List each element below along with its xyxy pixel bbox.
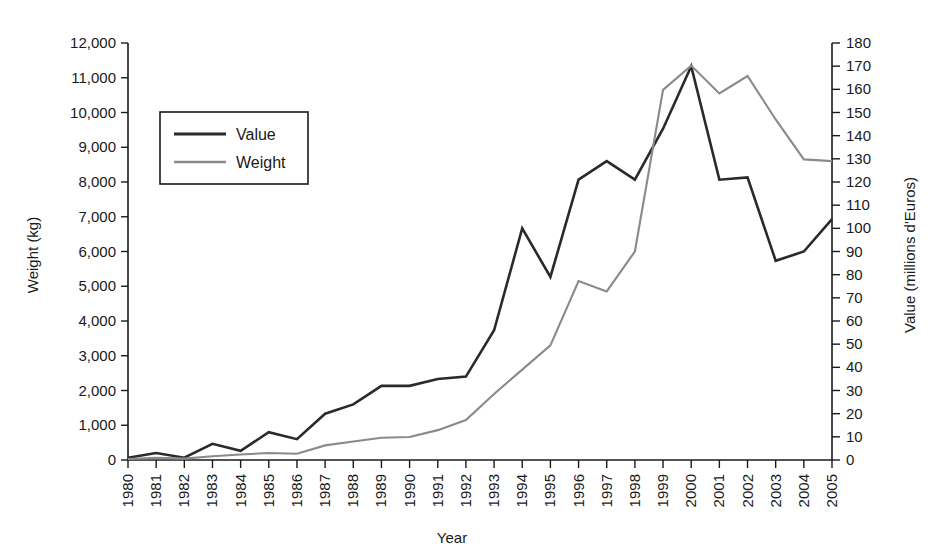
y-axis-right-tick-label: 40: [846, 358, 863, 375]
y-axis-left-tick-label: 9,000: [78, 138, 116, 155]
y-axis-right-tick-label: 140: [846, 127, 871, 144]
y-axis-right-tick-label: 50: [846, 335, 863, 352]
x-axis-tick-label: 1991: [429, 474, 446, 507]
y-axis-left-tick-label: 5,000: [78, 277, 116, 294]
x-axis-tick-label: 1994: [513, 474, 530, 507]
y-axis-right-tick-label: 80: [846, 266, 863, 283]
y-axis-right-tick-label: 60: [846, 312, 863, 329]
y-axis-right-tick-label: 100: [846, 219, 871, 236]
x-axis-tick-label: 1981: [147, 474, 164, 507]
x-axis-tick-label: 1999: [654, 474, 671, 507]
y-axis-right-tick-label: 0: [846, 451, 854, 468]
y-axis-left-tick-label: 12,000: [70, 34, 116, 51]
y-axis-left-tick-label: 3,000: [78, 347, 116, 364]
y-axis-left-title: Weight (kg): [24, 217, 41, 293]
chart-container: 01,0002,0003,0004,0005,0006,0007,0008,00…: [0, 0, 950, 555]
x-axis-tick-label: 2004: [795, 474, 812, 507]
x-axis-tick-label: 1985: [260, 474, 277, 507]
y-axis-left-tick-label: 1,000: [78, 416, 116, 433]
y-axis-right-tick-label: 150: [846, 104, 871, 121]
legend-box: [160, 112, 308, 184]
x-axis-tick-label: 1995: [541, 474, 558, 507]
x-axis-tick-label: 1998: [626, 474, 643, 507]
line-chart: 01,0002,0003,0004,0005,0006,0007,0008,00…: [0, 0, 950, 555]
y-axis-right-tick-label: 20: [846, 405, 863, 422]
x-axis-tick-label: 1983: [203, 474, 220, 507]
x-axis-tick-label: 2000: [682, 474, 699, 507]
y-axis-right-tick-label: 180: [846, 34, 871, 51]
legend-label-value: Value: [236, 126, 276, 143]
y-axis-left-tick-label: 6,000: [78, 243, 116, 260]
x-axis-tick-label: 1987: [316, 474, 333, 507]
y-axis-right-tick-label: 70: [846, 289, 863, 306]
x-axis-tick-label: 1993: [485, 474, 502, 507]
x-axis-tick-label: 1986: [288, 474, 305, 507]
x-axis-tick-label: 1997: [598, 474, 615, 507]
x-axis-tick-label: 1984: [232, 474, 249, 507]
y-axis-left-tick-label: 8,000: [78, 173, 116, 190]
y-axis-right-tick-label: 110: [846, 196, 870, 213]
chart-legend: ValueWeight: [160, 112, 308, 184]
y-axis-right-tick-label: 10: [846, 428, 863, 445]
x-axis-title: Year: [437, 529, 467, 546]
y-axis-left-tick-label: 7,000: [78, 208, 116, 225]
y-axis-right-tick-label: 90: [846, 243, 863, 260]
y-axis-right-tick-label: 160: [846, 80, 871, 97]
x-axis-tick-label: 1996: [570, 474, 587, 507]
x-axis: 1980198119821983198419851986198719881989…: [119, 460, 840, 507]
y-axis-left-tick-label: 2,000: [78, 382, 116, 399]
y-axis-right-tick-label: 120: [846, 173, 871, 190]
y-axis-left-tick-label: 10,000: [70, 104, 116, 121]
x-axis-tick-label: 2002: [739, 474, 756, 507]
x-axis-tick-label: 1988: [344, 474, 361, 507]
y-axis-right-title: Value (millions d'Euros): [901, 177, 918, 333]
x-axis-tick-label: 2005: [823, 474, 840, 507]
x-axis-tick-label: 2003: [767, 474, 784, 507]
x-axis-tick-label: 1990: [401, 474, 418, 507]
y-axis-right-tick-label: 30: [846, 382, 863, 399]
y-axis-left-tick-label: 11,000: [71, 69, 116, 86]
x-axis-tick-label: 1989: [372, 474, 389, 507]
y-axis-left-tick-label: 0: [108, 451, 116, 468]
y-axis-right-tick-label: 170: [846, 57, 871, 74]
x-axis-tick-label: 2001: [710, 474, 727, 507]
y-axis-left-tick-label: 4,000: [78, 312, 116, 329]
legend-label-weight: Weight: [236, 154, 286, 171]
x-axis-tick-label: 1992: [457, 474, 474, 507]
y-axis-right: 0102030405060708090100110120130140150160…: [832, 34, 871, 468]
x-axis-tick-label: 1982: [175, 474, 192, 507]
y-axis-right-tick-label: 130: [846, 150, 871, 167]
y-axis-left: 01,0002,0003,0004,0005,0006,0007,0008,00…: [70, 34, 128, 468]
x-axis-tick-label: 1980: [119, 474, 136, 507]
